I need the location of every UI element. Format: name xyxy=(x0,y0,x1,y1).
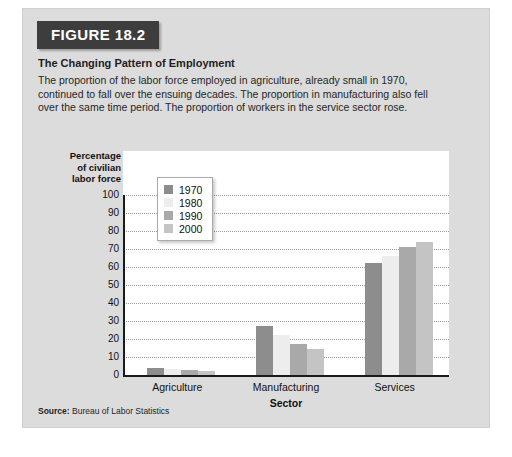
y-tick-label: 20 xyxy=(93,333,119,344)
y-tick-label: 70 xyxy=(93,243,119,254)
y-axis-title: Percentage of civilian labor force xyxy=(45,150,121,185)
y-axis-title-line-1: Percentage xyxy=(45,150,121,162)
y-tick-label: 90 xyxy=(93,207,119,218)
source-text: Bureau of Labor Statistics xyxy=(72,406,169,416)
y-tick-label: 100 xyxy=(93,189,119,200)
x-axis-line xyxy=(123,375,449,377)
legend-item-1980: 1980 xyxy=(164,196,202,209)
y-tick-label: 40 xyxy=(93,297,119,308)
y-tick-label: 50 xyxy=(93,279,119,290)
bar-manufacturing-2000 xyxy=(307,349,324,375)
legend-item-1970: 1970 xyxy=(164,183,202,196)
legend-label-1970: 1970 xyxy=(179,184,202,196)
bar-services-1980 xyxy=(382,256,399,375)
bar-agriculture-1970 xyxy=(147,368,164,375)
y-axis-title-line-3: labor force xyxy=(45,173,121,185)
legend-label-2000: 2000 xyxy=(179,223,202,235)
chart-legend: 1970198019902000 xyxy=(157,177,213,241)
bar-agriculture-1990 xyxy=(181,370,198,375)
bar-chart: Percentage of civilian labor force 01020… xyxy=(105,151,449,377)
y-tick-label: 10 xyxy=(93,351,119,362)
figure-panel: FIGURE 18.2 The Changing Pattern of Empl… xyxy=(22,8,490,428)
bar-manufacturing-1970 xyxy=(256,326,273,376)
y-tick-label: 80 xyxy=(93,225,119,236)
category-label-services: Services xyxy=(340,381,449,393)
category-label-agriculture: Agriculture xyxy=(123,381,232,393)
legend-swatch-1990 xyxy=(164,211,173,220)
bar-services-2000 xyxy=(416,242,433,375)
bar-services-1970 xyxy=(365,263,382,375)
legend-swatch-2000 xyxy=(164,224,173,233)
bar-agriculture-1980 xyxy=(164,369,181,375)
bar-agriculture-2000 xyxy=(198,371,215,376)
legend-label-1980: 1980 xyxy=(179,197,202,209)
source-note: Source: Bureau of Labor Statistics xyxy=(38,406,169,416)
plot-top-edge xyxy=(123,151,449,152)
legend-label-1990: 1990 xyxy=(179,210,202,222)
y-tick-label: 30 xyxy=(93,315,119,326)
y-tick-label: 0 xyxy=(93,369,119,380)
legend-swatch-1980 xyxy=(164,198,173,207)
figure-description: The proportion of the labor force employ… xyxy=(38,74,438,115)
legend-item-2000: 2000 xyxy=(164,222,202,235)
y-axis-line xyxy=(123,195,125,377)
y-tick-label: 60 xyxy=(93,261,119,272)
source-label: Source: xyxy=(38,406,70,416)
figure-title: The Changing Pattern of Employment xyxy=(38,57,458,69)
y-axis-title-line-2: of civilian xyxy=(45,162,121,174)
bar-services-1990 xyxy=(399,247,416,375)
bar-manufacturing-1990 xyxy=(290,344,307,376)
legend-item-1990: 1990 xyxy=(164,209,202,222)
x-axis-title: Sector xyxy=(123,397,449,409)
legend-swatch-1970 xyxy=(164,185,173,194)
bar-manufacturing-1980 xyxy=(273,335,290,375)
category-label-manufacturing: Manufacturing xyxy=(232,381,341,393)
figure-number-badge: FIGURE 18.2 xyxy=(37,21,159,49)
